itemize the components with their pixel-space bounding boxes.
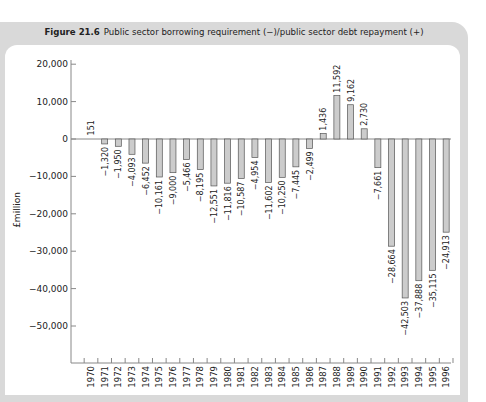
- bar: [143, 139, 149, 163]
- bar: [361, 129, 367, 139]
- y-axis-label: £million: [12, 192, 22, 228]
- bar-value-label: −7,661: [374, 171, 383, 201]
- x-tick-label: 1987: [318, 366, 328, 387]
- bar-value-label: −8,195: [196, 173, 205, 203]
- x-tick-label: 1972: [113, 366, 123, 387]
- bars: 151−1,320−1,950−4,093−6,452−10,161−9,000…: [87, 65, 451, 336]
- x-tick-label: 1990: [359, 366, 369, 387]
- bar: [279, 139, 285, 177]
- bar: [334, 96, 340, 139]
- x-tick-label: 1979: [209, 366, 219, 387]
- bar: [430, 139, 436, 270]
- x-tick-label: 1988: [332, 366, 342, 387]
- x-tick-label: 1978: [195, 366, 205, 387]
- y-tick-label: −20,000: [29, 209, 68, 219]
- bar-value-label: −6,452: [142, 166, 151, 196]
- x-tick-label: 1986: [305, 366, 315, 387]
- bar-value-label: −11,816: [224, 186, 233, 221]
- x-tick-label: 1995: [428, 366, 438, 387]
- x-tick-label: 1975: [154, 366, 164, 387]
- bar: [320, 134, 326, 139]
- x-tick-label: 1992: [387, 366, 397, 387]
- bar: [225, 139, 231, 183]
- bar-value-label: −10,250: [278, 180, 287, 215]
- bar-value-label: −9,000: [169, 176, 178, 206]
- bar: [115, 139, 121, 146]
- x-tick-label: 1994: [414, 366, 424, 387]
- x-tick-label: 1973: [127, 366, 137, 387]
- y-tick-label: 0: [62, 134, 68, 144]
- x-tick-label: 1996: [441, 366, 451, 387]
- x-tick-label: 1977: [182, 366, 192, 387]
- x-tick-label: 1982: [250, 366, 260, 387]
- bar: [184, 139, 190, 159]
- bar-value-label: −5,466: [183, 162, 192, 192]
- bar: [375, 139, 381, 168]
- x-tick-label: 1976: [168, 366, 178, 387]
- bar: [348, 105, 354, 139]
- x-tick-label: 1970: [86, 366, 96, 387]
- bar-value-label: 1,436: [319, 108, 328, 131]
- y-tick-label: −10,000: [29, 171, 68, 181]
- x-tick-label: 1981: [236, 366, 246, 387]
- bar: [416, 139, 422, 281]
- bar: [129, 139, 135, 154]
- x-tick-label: 1971: [100, 366, 110, 387]
- bar-value-label: −2,499: [306, 151, 315, 181]
- bar-value-label: −12,551: [210, 189, 219, 224]
- bar: [443, 139, 449, 232]
- bar-value-label: −37,888: [415, 284, 424, 319]
- bar-value-label: −4,093: [128, 157, 137, 187]
- bar-value-label: −24,913: [442, 235, 451, 270]
- bar-value-label: −42,503: [401, 301, 410, 336]
- bar-value-label: 9,162: [347, 79, 356, 102]
- x-tick-label: 1991: [373, 366, 383, 387]
- bar: [170, 139, 176, 173]
- y-tick-label: −50,000: [29, 321, 68, 331]
- bar-value-label: −7,445: [292, 170, 301, 200]
- bar-value-label: −10,587: [237, 182, 246, 217]
- x-tick-label: 1980: [223, 366, 233, 387]
- bar-value-label: −28,664: [388, 249, 397, 284]
- bar: [402, 139, 408, 298]
- bar: [156, 139, 162, 177]
- bar: [307, 139, 313, 148]
- bar: [266, 139, 272, 182]
- bar-value-label: 151: [87, 120, 96, 135]
- x-tick-label: 1989: [346, 366, 356, 387]
- bar-value-label: 2,730: [360, 103, 369, 126]
- bar: [238, 139, 244, 179]
- bar: [211, 139, 217, 186]
- bar-value-label: −10,161: [155, 180, 164, 215]
- bar: [293, 139, 299, 167]
- x-tick-label: 1985: [291, 366, 301, 387]
- bar-value-label: −4,954: [251, 161, 260, 191]
- y-tick-label: −30,000: [29, 246, 68, 256]
- bar: [252, 139, 258, 158]
- bar-value-label: −1,320: [101, 147, 110, 177]
- x-tick-label: 1974: [141, 366, 151, 387]
- x-tick-label: 1983: [264, 366, 274, 387]
- x-tick-label: 1993: [400, 366, 410, 387]
- bar: [102, 139, 108, 144]
- y-tick-label: −40,000: [29, 284, 68, 294]
- bar-value-label: −35,115: [429, 273, 438, 308]
- y-tick-label: 20,000: [37, 59, 69, 69]
- bar: [389, 139, 395, 246]
- bar-value-label: 11,592: [333, 65, 342, 93]
- bar-value-label: −1,950: [114, 149, 123, 179]
- x-tick-label: 1984: [277, 366, 287, 387]
- bar-value-label: −11,602: [265, 185, 274, 220]
- y-axis: 20,00010,0000−10,000−20,000−30,000−40,00…: [29, 59, 76, 363]
- y-tick-label: 10,000: [37, 97, 69, 107]
- bar: [197, 139, 203, 170]
